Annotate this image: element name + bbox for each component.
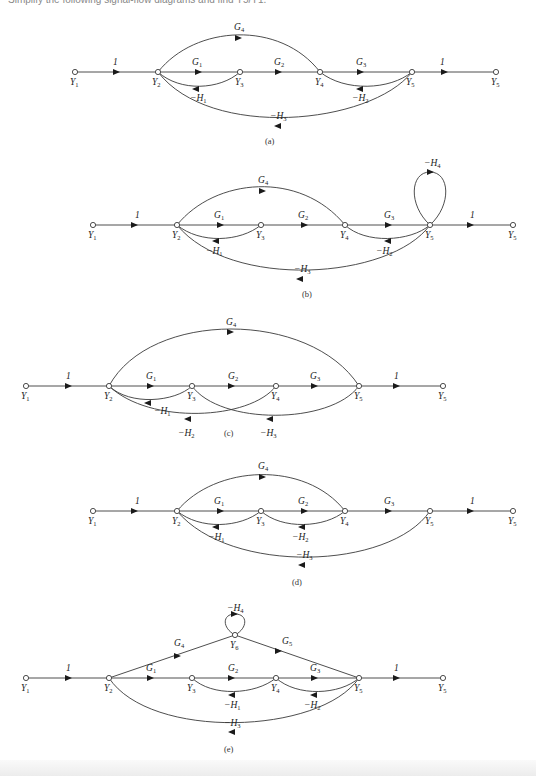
svg-text:G1: G1 [214,210,224,221]
svg-text:Y4: Y4 [271,683,280,694]
svg-text:Y4: Y4 [315,77,324,88]
svg-text:Y6: Y6 [230,640,239,651]
svg-text:Y2: Y2 [172,516,181,527]
caption-e: (e) [224,744,234,754]
svg-text:Y5: Y5 [354,683,363,694]
caption-c: (c) [224,428,234,438]
svg-text:−H2: −H2 [304,700,321,711]
svg-text:G4: G4 [258,461,269,472]
svg-text:−H3: −H3 [224,718,241,729]
svg-text:−H3: −H3 [260,428,277,439]
svg-text:Y5: Y5 [425,516,434,527]
signal-flow-figure: 1 G1 G2 G3 1 G4 −H1 −H2 −H3 Y1 Y2 Y3 Y4 … [0,0,536,776]
svg-text:−H2: −H2 [292,532,309,543]
svg-text:Y5: Y5 [438,683,447,694]
svg-text:G2: G2 [274,57,284,68]
diagram-c: 1 G1 G2 G3 1 G4 −H1 −H2 −H3 Y1 Y2 Y3 Y4 … [21,317,447,439]
svg-text:Y2: Y2 [104,683,113,694]
svg-text:Y1: Y1 [88,230,97,241]
svg-text:G3: G3 [384,210,394,221]
svg-text:Y2: Y2 [104,391,113,402]
diagram-e: 1 G1 G2 G3 1 G4 G5 −H4 −H1 −H2 −H3 Y1 Y2… [21,603,447,754]
svg-text:−H3: −H3 [270,111,287,122]
scan-shadow-band [0,760,536,776]
svg-text:1: 1 [113,57,118,67]
svg-text:G1: G1 [146,663,156,674]
svg-text:1: 1 [394,371,399,381]
svg-text:1: 1 [470,496,475,506]
svg-text:Y1: Y1 [21,683,30,694]
svg-text:Y5: Y5 [425,230,434,241]
svg-text:G3: G3 [384,496,394,507]
svg-text:Y3: Y3 [256,516,265,527]
svg-text:1: 1 [135,496,140,506]
svg-text:1: 1 [394,663,399,673]
svg-text:Y5: Y5 [406,77,415,88]
svg-text:G1: G1 [192,57,202,68]
svg-text:Y5: Y5 [438,391,447,402]
svg-text:−H1: −H1 [154,406,171,417]
diagram-b: 1 G1 G2 G3 1 G4 −H4 −H1 −H2 −H3 Y1 Y2 Y3… [88,158,517,299]
svg-text:1: 1 [66,663,71,673]
caption-a: (a) [265,136,275,146]
svg-text:Y4: Y4 [271,391,280,402]
svg-text:−H2: −H2 [178,428,195,439]
svg-text:Y1: Y1 [70,77,79,88]
svg-text:1: 1 [135,210,140,220]
svg-text:Y4: Y4 [340,230,349,241]
diagram-a: 1 G1 G2 G3 1 G4 −H1 −H2 −H3 Y1 Y2 Y3 Y4 … [70,22,500,146]
svg-text:−H2: −H2 [376,246,393,257]
svg-text:−H4: −H4 [424,158,441,169]
svg-text:G5: G5 [282,636,292,647]
svg-text:Y3: Y3 [256,230,265,241]
svg-text:−H3: −H3 [296,550,313,561]
svg-text:−H1: −H1 [224,700,241,711]
svg-text:G3: G3 [310,663,320,674]
svg-text:G2: G2 [298,210,308,221]
svg-text:−H3: −H3 [294,264,311,275]
svg-text:−H4: −H4 [227,603,244,614]
svg-text:G1: G1 [146,371,156,382]
svg-text:G3: G3 [356,57,366,68]
svg-text:1: 1 [470,210,475,220]
svg-text:−H1: −H1 [190,93,207,104]
svg-text:G2: G2 [298,496,308,507]
svg-text:1: 1 [440,57,445,67]
svg-text:G3: G3 [310,371,320,382]
svg-text:Y1: Y1 [21,391,30,402]
svg-text:Y5: Y5 [508,516,517,527]
diagram-d: 1 G1 G2 G3 1 G4 −H1 −H2 −H3 Y1 Y2 Y3 Y4 … [88,461,517,587]
svg-text:G2: G2 [228,371,238,382]
svg-text:1: 1 [66,371,71,381]
caption-b: (b) [302,289,312,299]
svg-text:Y3: Y3 [187,683,196,694]
svg-text:G4: G4 [174,638,185,649]
svg-text:G1: G1 [214,496,224,507]
svg-text:G4: G4 [258,175,269,186]
svg-text:−H1: −H1 [206,246,223,257]
svg-text:G2: G2 [228,663,238,674]
svg-text:−H1: −H1 [208,532,225,543]
svg-text:Y1: Y1 [88,516,97,527]
svg-text:G4: G4 [234,22,245,33]
svg-text:Y3: Y3 [235,77,244,88]
svg-text:Y4: Y4 [340,516,349,527]
svg-text:Y5: Y5 [508,230,517,241]
svg-text:Y2: Y2 [152,77,161,88]
svg-text:Y2: Y2 [172,230,181,241]
svg-text:Y3: Y3 [187,391,196,402]
svg-text:G4: G4 [226,317,237,328]
svg-text:−H2: −H2 [352,93,369,104]
caption-d: (d) [292,577,302,587]
svg-text:Y5: Y5 [491,77,500,88]
svg-text:Y5: Y5 [354,391,363,402]
